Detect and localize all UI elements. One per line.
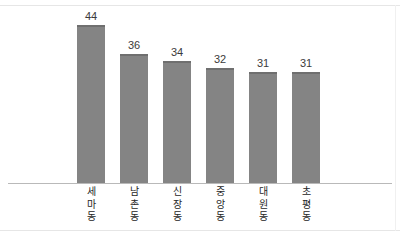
- x-tick-label-char: 세: [76, 186, 106, 199]
- bar[interactable]: [77, 25, 105, 183]
- bar[interactable]: [206, 68, 234, 183]
- bar-group[interactable]: 31: [292, 52, 320, 183]
- x-tick-label-char: 장: [162, 199, 192, 212]
- bar-group[interactable]: 32: [206, 48, 234, 183]
- plot-area: 443634323131: [0, 0, 400, 183]
- bar[interactable]: [249, 72, 277, 183]
- x-tick-label-char: 동: [248, 211, 278, 224]
- bar-group[interactable]: 44: [77, 5, 105, 183]
- bar[interactable]: [292, 72, 320, 183]
- x-tick-label-char: 평: [291, 199, 321, 212]
- x-tick-label: 남촌동: [119, 186, 149, 224]
- x-tick-label-char: 대: [248, 186, 278, 199]
- x-tick-label-char: 동: [119, 211, 149, 224]
- x-tick-label-char: 신: [162, 186, 192, 199]
- x-tick-label: 초평동: [291, 186, 321, 224]
- x-tick-label: 중앙동: [205, 186, 235, 224]
- bar-group[interactable]: 34: [163, 41, 191, 183]
- x-tick-label: 세마동: [76, 186, 106, 224]
- bar-value-label: 31: [276, 57, 336, 69]
- x-tick-label-char: 원: [248, 199, 278, 212]
- x-tick-label-char: 동: [76, 211, 106, 224]
- bar-group[interactable]: 31: [249, 52, 277, 183]
- bar-group[interactable]: 36: [120, 34, 148, 183]
- x-tick-label-char: 동: [291, 211, 321, 224]
- bar[interactable]: [163, 61, 191, 183]
- x-tick-label-char: 동: [205, 211, 235, 224]
- x-tick-label-char: 마: [76, 199, 106, 212]
- x-tick-label-char: 앙: [205, 199, 235, 212]
- x-tick-label: 신장동: [162, 186, 192, 224]
- x-tick-label-char: 남: [119, 186, 149, 199]
- x-tick-label: 대원동: [248, 186, 278, 224]
- x-tick-label-char: 동: [162, 211, 192, 224]
- x-axis-tick-labels: 세마동남촌동신장동중앙동대원동초평동: [0, 184, 400, 232]
- x-tick-label-char: 초: [291, 186, 321, 199]
- x-tick-label-char: 촌: [119, 199, 149, 212]
- bar[interactable]: [120, 54, 148, 183]
- bar-value-label: 44: [61, 10, 121, 22]
- x-tick-label-char: 중: [205, 186, 235, 199]
- bar-chart: 443634323131 세마동남촌동신장동중앙동대원동초평동: [0, 0, 400, 242]
